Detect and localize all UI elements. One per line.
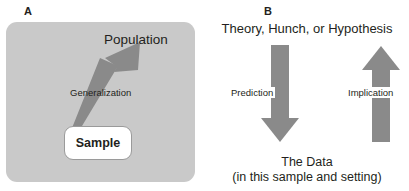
generalization-label: Generalization: [70, 87, 131, 98]
population-label: Population: [104, 32, 168, 47]
sample-box: Sample: [64, 126, 132, 160]
panel-b: B Theory, Hunch, or Hypothesis Predictio…: [205, 0, 409, 191]
panel-a: A Population Generalization Sample: [0, 0, 205, 191]
sample-label: Sample: [76, 136, 120, 150]
the-data-label: The Data: [205, 155, 409, 169]
panel-a-letter: A: [24, 5, 32, 17]
figure-root: A Population Generalization Sample B The…: [0, 0, 409, 191]
the-data-sublabel: (in this sample and setting): [205, 170, 409, 184]
implication-label: Implication: [346, 87, 395, 98]
prediction-label: Prediction: [229, 87, 275, 98]
